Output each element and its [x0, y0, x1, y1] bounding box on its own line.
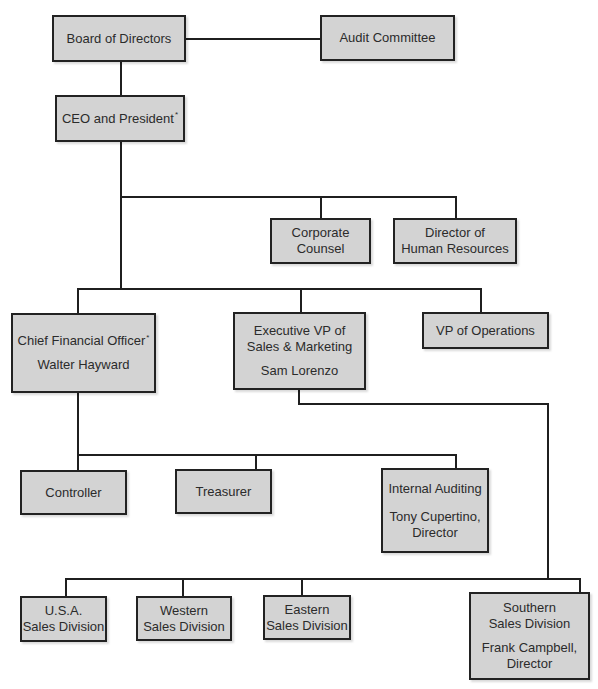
footnote-marker: *: [146, 333, 149, 342]
node-southern-sales-division: Southern Sales Division Frank Campbell, …: [469, 592, 590, 680]
node-chief-financial-officer: Chief Financial Officer* Walter Hayward: [11, 313, 156, 393]
connector-ceo-trunk: [120, 142, 122, 290]
node-vp-of-operations: VP of Operations: [422, 312, 549, 349]
node-title: Sales Division: [23, 619, 105, 635]
node-title: Human Resources: [401, 241, 509, 257]
connector-to-eastern: [301, 578, 303, 595]
footnote-marker: *: [175, 110, 178, 119]
node-title-text: Chief Financial Officer: [18, 333, 146, 348]
connector-evp-drop: [547, 403, 549, 580]
node-audit-committee: Audit Committee: [320, 15, 455, 61]
node-title: Director of: [425, 225, 485, 241]
node-title: Sales Division: [143, 619, 225, 635]
node-title: Counsel: [297, 241, 345, 257]
node-corporate-counsel: Corporate Counsel: [270, 218, 371, 264]
node-title: Southern: [503, 600, 556, 616]
node-person: Walter Hayward: [38, 357, 130, 373]
connector-cfo-trunk: [77, 393, 79, 456]
connector-officers-bar: [77, 288, 482, 290]
connector-staff-bar: [120, 196, 457, 198]
connector-to-hr: [455, 196, 457, 218]
node-title: Executive VP of: [254, 323, 346, 339]
org-chart: Board of Directors Audit Committee CEO a…: [0, 0, 598, 689]
node-title-text: CEO and President: [62, 111, 174, 126]
connector-finance-bar: [77, 454, 457, 456]
node-title: Corporate: [292, 225, 350, 241]
connector-evp-route: [298, 403, 549, 405]
node-person: Frank Campbell, Director: [482, 640, 577, 672]
node-controller: Controller: [20, 470, 127, 515]
connector-to-southern: [579, 578, 581, 592]
connector-board-audit: [186, 38, 320, 40]
person-name: Sam Lorenzo: [261, 363, 338, 379]
node-title: Western: [160, 603, 208, 619]
connector-to-controller: [77, 454, 79, 470]
person-name: Tony Cupertino,: [389, 509, 480, 525]
node-usa-sales-division: U.S.A. Sales Division: [20, 596, 107, 642]
node-ceo-and-president: CEO and President*: [55, 95, 185, 142]
node-title: Treasurer: [196, 484, 252, 500]
person-name: Walter Hayward: [38, 357, 130, 373]
person-name: Frank Campbell,: [482, 640, 577, 656]
connector-to-vpops: [480, 288, 482, 312]
node-executive-vp-sales-marketing: Executive VP of Sales & Marketing Sam Lo…: [233, 312, 366, 390]
node-title: Eastern: [285, 602, 330, 618]
node-title: Chief Financial Officer*: [18, 333, 150, 349]
connector-to-treasurer: [255, 454, 257, 469]
connector-board-ceo: [120, 62, 122, 95]
node-treasurer: Treasurer: [175, 469, 272, 514]
connector-to-cfo: [77, 288, 79, 313]
node-title: Sales & Marketing: [247, 339, 353, 355]
node-western-sales-division: Western Sales Division: [136, 596, 232, 641]
node-internal-auditing: Internal Auditing Tony Cupertino, Direct…: [381, 468, 489, 553]
connector-to-usa: [65, 578, 67, 596]
node-title: Audit Committee: [339, 30, 435, 46]
node-title: CEO and President*: [62, 111, 178, 127]
node-title: Controller: [45, 485, 101, 501]
node-person: Sam Lorenzo: [261, 363, 338, 379]
connector-to-evp: [300, 288, 302, 312]
node-title: U.S.A.: [45, 603, 83, 619]
connector-to-western: [182, 578, 184, 596]
node-title: Sales Division: [489, 616, 571, 632]
connector-sales-bar: [65, 578, 581, 580]
person-role: Director: [482, 656, 577, 672]
connector-to-counsel: [320, 196, 322, 218]
node-person: Tony Cupertino, Director: [389, 509, 480, 541]
connector-to-internal-audit: [455, 454, 457, 468]
node-director-human-resources: Director of Human Resources: [393, 218, 517, 264]
node-title: Board of Directors: [67, 31, 172, 47]
person-role: Director: [389, 525, 480, 541]
node-board-of-directors: Board of Directors: [52, 15, 186, 62]
node-title: Internal Auditing: [388, 481, 481, 497]
node-eastern-sales-division: Eastern Sales Division: [263, 595, 351, 640]
node-title: VP of Operations: [436, 323, 535, 339]
node-title: Sales Division: [266, 618, 348, 634]
